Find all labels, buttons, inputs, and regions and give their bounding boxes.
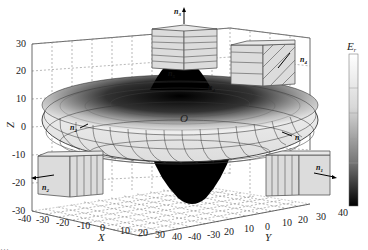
y-axis-label: Y (265, 231, 273, 243)
y-tick: 10 (282, 217, 292, 228)
x-axis-label: X (97, 231, 106, 243)
y-tick: 20 (224, 226, 234, 237)
figure-caption-fragment: … (0, 243, 368, 250)
y-tick: -30 (207, 229, 220, 240)
x-tick: -10 (77, 220, 90, 231)
z-tick-10: 10 (16, 93, 26, 104)
y-tick: 40 (338, 207, 348, 218)
young-modulus-surface-figure: 30 20 10 0 -10 -20 -30 Z -40 -30 -20 -10… (0, 0, 368, 250)
z-tick-20: 20 (16, 65, 26, 76)
caption-text: … (0, 243, 368, 250)
cube-n3-horizontal-laminate: n3 (152, 7, 217, 70)
origin-label: O (180, 112, 188, 124)
z-axis-label: Z (4, 121, 16, 128)
y-tick: 20 (298, 214, 308, 225)
z-tick-neg20: -20 (12, 177, 25, 188)
y-tick: -40 (188, 231, 201, 242)
n3-label: n3 (174, 7, 181, 17)
x-tick: -20 (56, 217, 69, 228)
cube-n4-diagonal-laminate: n4 (231, 40, 307, 86)
z-tick-neg10: -10 (12, 149, 25, 160)
y-tick: 10 (244, 223, 254, 234)
x-tick: 30 (155, 229, 165, 240)
x-tick: 10 (120, 225, 130, 236)
n-right-surface-label: n (295, 133, 300, 142)
colorbar-label: Er (346, 40, 357, 53)
x-tick: 40 (172, 231, 182, 242)
z-tick-30: 30 (16, 38, 26, 49)
n4-label: n4 (300, 55, 307, 65)
x-tick: -40 (18, 213, 31, 224)
x-axis: -40 -30 -20 -10 0 10 20 30 40 X (18, 213, 182, 243)
colorbar: Er (346, 40, 358, 206)
x-tick: -30 (36, 214, 49, 225)
x-tick: 20 (138, 227, 148, 238)
cube-n2-vertical-laminate: n2 (31, 151, 103, 197)
y-tick: 30 (316, 211, 326, 222)
cube-n1-vertical-laminate: n1 (266, 151, 337, 196)
z-tick-0: 0 (21, 121, 26, 132)
